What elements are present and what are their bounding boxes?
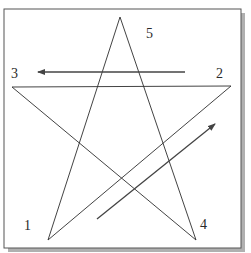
- vertex-label-4: 4: [200, 217, 207, 232]
- vertex-label-2: 2: [216, 66, 223, 81]
- vertex-label-3: 3: [11, 66, 18, 81]
- vertex-label-5: 5: [146, 26, 153, 41]
- diagram-frame: [4, 9, 241, 248]
- vertex-label-1: 1: [24, 218, 31, 233]
- pentagram-diagram: 12345: [0, 0, 251, 253]
